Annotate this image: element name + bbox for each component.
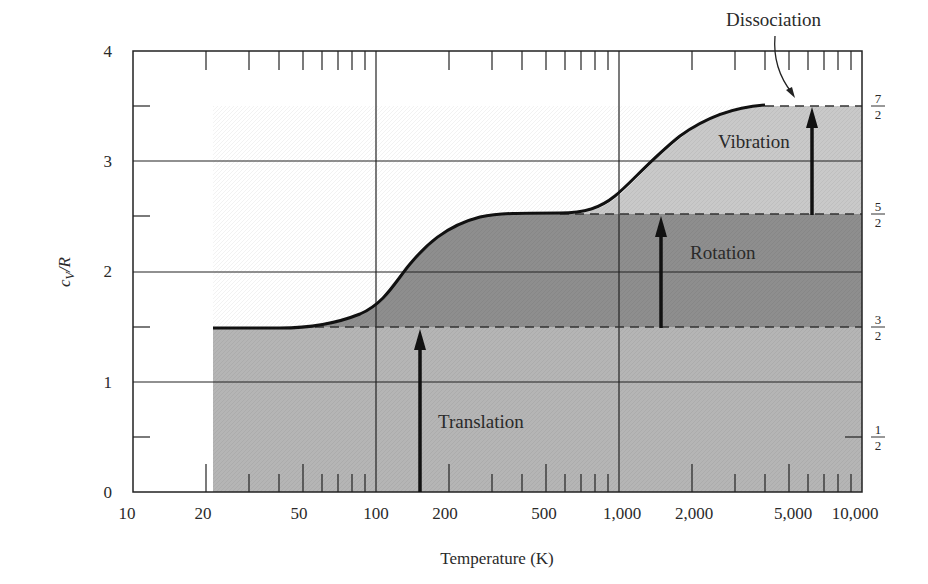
- rotation-label: Rotation: [690, 242, 756, 263]
- svg-text:10,000: 10,000: [832, 504, 879, 523]
- svg-text:5,000: 5,000: [774, 504, 812, 523]
- translation-label: Translation: [438, 411, 524, 432]
- vibration-label: Vibration: [718, 131, 790, 152]
- svg-text:2: 2: [875, 438, 882, 453]
- x-tick-labels: 10 20 50 100 200 500 1,000 2,000 5,000 1…: [119, 504, 879, 523]
- svg-text:1: 1: [104, 373, 113, 392]
- right-axis-fractions: 7 2 5 2 3 2 1 2: [871, 91, 885, 453]
- plot-regions: [213, 106, 862, 492]
- svg-text:500: 500: [531, 504, 557, 523]
- svg-text:1: 1: [875, 422, 882, 437]
- svg-text:2: 2: [104, 262, 113, 281]
- svg-text:7: 7: [875, 91, 882, 106]
- svg-text:10: 10: [119, 504, 136, 523]
- svg-text:2: 2: [875, 215, 882, 230]
- svg-text:3: 3: [104, 152, 113, 171]
- x-axis-title: Temperature (K): [440, 549, 554, 568]
- svg-text:1,000: 1,000: [603, 504, 641, 523]
- y-axis-title: cV/R: [55, 256, 77, 287]
- heat-capacity-chart: Translation Rotation Vibration Dissociat…: [0, 0, 928, 584]
- y-tick-labels: 0 1 2 3 4: [104, 42, 113, 502]
- pointer-head-icon: [786, 87, 795, 98]
- svg-text:cV/R: cV/R: [55, 256, 77, 287]
- svg-text:200: 200: [432, 504, 458, 523]
- dissociation-label: Dissociation: [726, 9, 821, 30]
- svg-text:5: 5: [875, 199, 882, 214]
- svg-text:20: 20: [195, 504, 212, 523]
- svg-text:2: 2: [875, 328, 882, 343]
- svg-text:2: 2: [875, 107, 882, 122]
- svg-text:100: 100: [363, 504, 389, 523]
- svg-text:3: 3: [875, 312, 882, 327]
- svg-text:4: 4: [104, 42, 113, 61]
- svg-text:50: 50: [291, 504, 308, 523]
- svg-text:0: 0: [104, 483, 113, 502]
- svg-text:2,000: 2,000: [675, 504, 713, 523]
